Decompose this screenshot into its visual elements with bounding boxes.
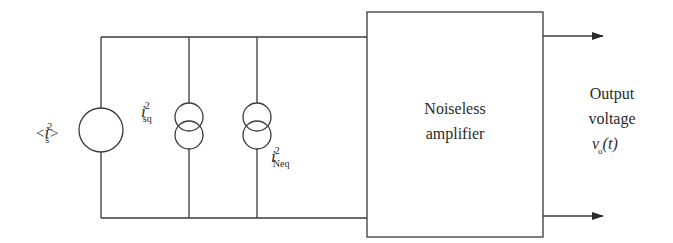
circuit-diagram: <i2s> i2sq i2Neq Noiseless amplifier Out… <box>0 0 673 243</box>
amplifier-label-line2: amplifier <box>426 125 485 143</box>
noise-source-lower-circle-icon <box>175 121 203 149</box>
source-circle-icon <box>79 108 123 152</box>
noise-source-upper-circle-icon <box>175 103 203 131</box>
source-label: <i2s> <box>36 121 59 145</box>
equivalent-noise-current-source <box>243 37 271 218</box>
output-voltage-symbol: νo(t) <box>592 135 618 156</box>
shot-noise-label: i2sq <box>141 100 152 124</box>
noise-source-lower-circle-icon <box>243 121 271 149</box>
noise-source-upper-circle-icon <box>243 103 271 131</box>
output-label-line1: Output <box>590 85 635 103</box>
shot-noise-current-source <box>175 37 203 218</box>
equivalent-noise-label: i2Neq <box>271 145 289 169</box>
signal-current-source <box>79 37 123 218</box>
output-label-line2: voltage <box>588 110 635 128</box>
amplifier-label-line1: Noiseless <box>424 100 485 117</box>
